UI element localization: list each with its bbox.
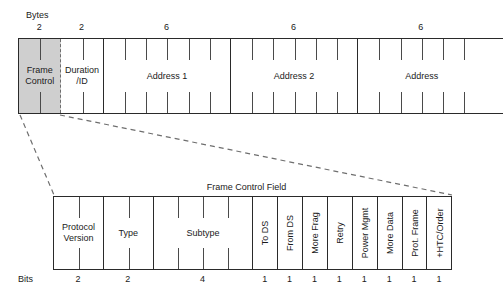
bit-tick	[129, 197, 130, 218]
fc-bit-field-label: Retry	[335, 222, 345, 244]
bit-tick	[203, 248, 204, 269]
fc-bit-field-0: Protocol Version	[54, 197, 104, 269]
fc-bit-field-4: From DS	[278, 197, 303, 269]
fc-bit-field-size: 1	[302, 274, 327, 284]
bits-axis-label: Bits	[18, 274, 33, 284]
fc-bit-field-size: 1	[327, 274, 352, 284]
fc-bit-field-label: From DS	[285, 215, 295, 251]
bit-tick	[178, 248, 179, 269]
fc-bit-field-size: 1	[352, 274, 377, 284]
fc-bit-field-size: 1	[277, 274, 302, 284]
fc-bit-field-label: Subtype	[154, 228, 253, 239]
fc-bit-field-label: More Frag	[310, 212, 320, 254]
fc-bit-field-10: +HTC/Order	[428, 197, 453, 269]
fc-bit-field-3: To DS	[253, 197, 278, 269]
fc-bit-field-label: Protocol Version	[54, 222, 103, 244]
fc-bit-field-size: 1	[427, 274, 452, 284]
fc-bit-field-2: Subtype	[154, 197, 254, 269]
fc-bit-field-7: Power Mgmt	[353, 197, 378, 269]
fc-bit-field-size: 1	[402, 274, 427, 284]
bit-tick	[79, 248, 80, 269]
fc-bit-field-label: Type	[104, 228, 153, 239]
bit-tick	[228, 248, 229, 269]
fc-bit-field-5: More Frag	[303, 197, 328, 269]
fc-bit-field-8: More Data	[378, 197, 403, 269]
bit-tick	[228, 197, 229, 218]
fc-bit-field-size: 2	[53, 274, 103, 284]
frame-control-field-title: Frame Control Field	[0, 182, 503, 192]
fc-bit-field-9: Prot. Frame	[403, 197, 428, 269]
bit-tick	[129, 248, 130, 269]
fc-bit-field-label: To DS	[260, 221, 270, 246]
frame-control-field-frame: Protocol VersionTypeSubtypeTo DSFrom DSM…	[53, 196, 452, 270]
fc-bit-field-label: Prot. Frame	[410, 209, 420, 257]
fc-bit-field-size: 1	[252, 274, 277, 284]
bit-tick	[178, 197, 179, 218]
frame-control-diagram: Bytes 22666 Frame ControlDuration /IDAdd…	[0, 0, 503, 297]
bit-tick	[203, 197, 204, 218]
frame-control-field-title-text: Frame Control Field	[207, 182, 287, 192]
fc-bit-field-label: More Data	[385, 212, 395, 254]
fc-bit-field-size: 2	[103, 274, 153, 284]
fc-bit-field-label: Power Mgmt	[360, 208, 370, 259]
bit-tick	[79, 197, 80, 218]
fc-bit-field-label: +HTC/Order	[435, 208, 445, 257]
fc-bit-field-1: Type	[104, 197, 154, 269]
fc-bit-field-6: Retry	[328, 197, 353, 269]
fc-bit-field-size: 4	[153, 274, 253, 284]
fc-bit-field-size: 1	[377, 274, 402, 284]
